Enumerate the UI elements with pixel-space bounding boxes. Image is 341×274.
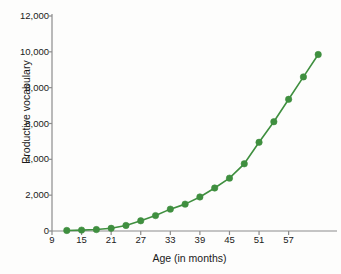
chart-figure: Productive vocabulary Age (in months) 02…: [0, 0, 341, 274]
data-point-marker: [211, 185, 217, 191]
data-point-marker: [78, 227, 84, 233]
data-point-marker: [167, 206, 173, 212]
data-point-marker: [108, 225, 114, 231]
data-point-marker: [64, 227, 70, 233]
data-point-marker: [285, 96, 291, 102]
data-point-marker: [152, 212, 158, 218]
data-point-marker: [315, 51, 321, 57]
data-point-marker: [241, 161, 247, 167]
data-point-marker: [182, 201, 188, 207]
chart-series-layer: [64, 51, 322, 233]
data-point-marker: [256, 139, 262, 145]
data-point-marker: [93, 226, 99, 232]
data-point-marker: [300, 74, 306, 80]
data-point-marker: [197, 194, 203, 200]
chart-plot-area: [0, 0, 341, 274]
data-point-marker: [123, 222, 129, 228]
chart-axes: [48, 14, 337, 235]
data-point-marker: [138, 218, 144, 224]
data-point-marker: [226, 175, 232, 181]
data-point-marker: [271, 119, 277, 125]
